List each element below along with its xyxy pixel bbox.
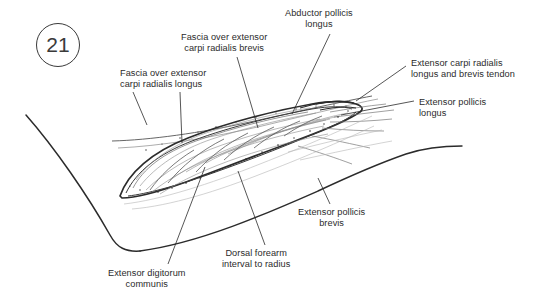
label-line: carpi radialis longus — [120, 79, 206, 90]
label-dorsal-forearm-interval: Dorsal forearminterval to radius — [222, 248, 290, 271]
label-line: Fascia over extensor — [181, 32, 267, 43]
label-line: Extensor pollicis — [419, 97, 486, 108]
label-fascia-ecrl: Fascia over extensorcarpi radialis longu… — [120, 68, 206, 91]
label-line: Extensor carpi radialis — [411, 58, 515, 69]
incision-outline — [120, 102, 362, 198]
leader-line-dorsal-forearm-interval — [238, 171, 265, 245]
label-ecrl-ecrb-tendon: Extensor carpi radialislongus and brevis… — [411, 58, 515, 81]
anatomical-figure: 21 — [0, 0, 559, 304]
leader-line-ecrl-ecrb-tendon — [356, 66, 406, 101]
label-line: Fascia over extensor — [120, 68, 206, 79]
label-line: Extensor digitorum — [108, 268, 186, 279]
label-line: communis — [108, 279, 186, 290]
label-extensor-pollicis-longus: Extensor pollicislongus — [419, 97, 486, 120]
label-line: carpi radialis brevis — [181, 43, 267, 54]
label-line: longus — [419, 108, 486, 119]
label-extensor-digitorum-communis: Extensor digitorumcommunis — [108, 268, 186, 291]
label-line: Dorsal forearm — [222, 248, 290, 259]
label-line: longus and brevis tendon — [411, 69, 515, 80]
leader-line-fascia-ecrb — [237, 57, 258, 128]
label-line: Abductor pollicis — [285, 8, 353, 19]
label-line: Extensor pollicis — [298, 207, 365, 218]
label-extensor-pollicis-brevis: Extensor pollicisbrevis — [298, 207, 365, 230]
label-line: interval to radius — [222, 259, 290, 270]
label-fascia-ecrb: Fascia over extensorcarpi radialis brevi… — [181, 32, 267, 55]
leader-line-extensor-pollicis-brevis — [318, 178, 330, 204]
label-abductor-pollicis-longus: Abductor pollicislongus — [285, 8, 353, 31]
leader-line-fascia-ecrl — [133, 92, 147, 125]
label-line: longus — [285, 19, 353, 30]
label-line: brevis — [298, 218, 365, 229]
leader-line-fascia-ecrl — [180, 92, 182, 143]
